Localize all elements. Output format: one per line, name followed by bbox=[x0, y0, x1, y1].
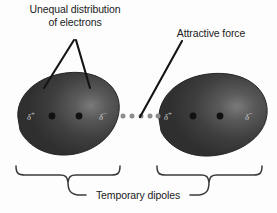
left-atom-delta-negative: δ− bbox=[99, 110, 107, 122]
right-atom-nucleus-dot-1 bbox=[190, 113, 197, 120]
right-atom-delta-positive: δ+ bbox=[164, 110, 172, 122]
attraction-dot bbox=[148, 114, 153, 119]
diagram-canvas bbox=[0, 0, 277, 213]
brace-left-atom bbox=[16, 166, 120, 195]
brace-left-connector bbox=[68, 182, 86, 195]
attraction-dot bbox=[156, 114, 161, 119]
brace-right-connector bbox=[190, 182, 209, 195]
left-atom-nucleus-dot-2 bbox=[76, 113, 83, 120]
left-atom-delta-positive: δ+ bbox=[27, 110, 35, 122]
left-atom-nucleus-dot-1 bbox=[49, 113, 56, 120]
brace-right-atom bbox=[157, 166, 262, 195]
right-atom-nucleus-dot-2 bbox=[217, 113, 224, 120]
temporary-dipoles-diagram: Unequal distribution of electrons Attrac… bbox=[0, 0, 277, 213]
attraction-dot bbox=[121, 114, 126, 119]
attraction-dot bbox=[130, 114, 135, 119]
right-atom-delta-negative: δ− bbox=[245, 110, 253, 122]
